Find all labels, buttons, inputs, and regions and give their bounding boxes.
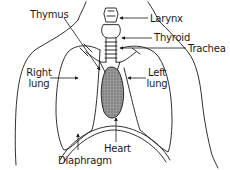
label-larynx: Larynx xyxy=(150,14,183,24)
label-right-lung-line1: Right xyxy=(26,68,52,78)
label-heart: Heart xyxy=(104,144,131,154)
label-left-lung: Left lung xyxy=(146,68,168,89)
label-left-lung-line1: Left xyxy=(146,68,168,78)
label-thymus: Thymus xyxy=(30,10,68,20)
larynx-shape xyxy=(104,8,118,22)
label-diaphragm: Diaphragm xyxy=(58,156,112,166)
thymus-leader xyxy=(64,18,100,70)
label-right-lung-line2: lung xyxy=(26,79,52,89)
heart-shape xyxy=(101,67,123,118)
label-thyroid: Thyroid xyxy=(154,33,190,43)
body-outline-left xyxy=(15,20,78,165)
label-left-lung-line2: lung xyxy=(146,79,168,89)
chest-anatomy-diagram: Thymus Larynx Thyroid Trachea Right lung… xyxy=(0,0,230,170)
label-right-lung: Right lung xyxy=(26,68,52,89)
thyroid-shape xyxy=(102,25,121,38)
label-trachea: Trachea xyxy=(188,44,226,54)
